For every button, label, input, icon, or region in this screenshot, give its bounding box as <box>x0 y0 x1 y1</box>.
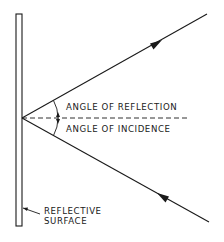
reflective-surface <box>16 14 22 226</box>
angle-of-incidence-label: ANGLE OF INCIDENCE <box>66 125 171 134</box>
incident-ray-arrow-icon <box>157 193 169 203</box>
angle-of-reflection-label: ANGLE OF REFLECTION <box>66 103 177 112</box>
arc-arrow-up-icon <box>56 112 60 117</box>
surface-label-line2: SURFACE <box>44 216 102 226</box>
reflected-ray-arrow-icon <box>150 40 162 50</box>
reflective-surface-label: REFLECTIVE SURFACE <box>44 206 102 226</box>
arc-arrow-down-icon <box>56 119 60 124</box>
surface-leader-arrow-icon <box>23 208 28 212</box>
reflection-diagram <box>0 0 224 242</box>
surface-label-line1: REFLECTIVE <box>44 206 102 216</box>
